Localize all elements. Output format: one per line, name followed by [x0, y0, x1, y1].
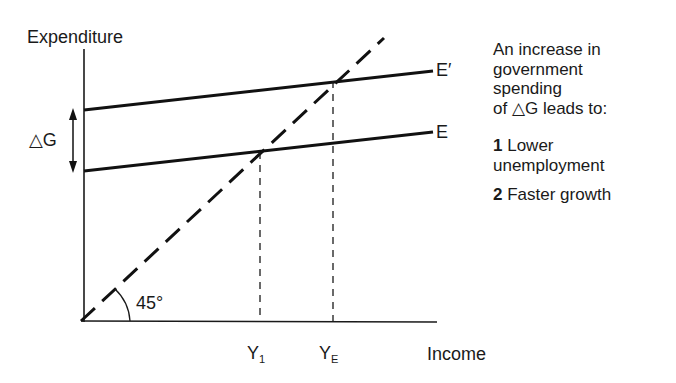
ye-sub: E	[331, 353, 338, 365]
y1-sub: 1	[259, 353, 265, 365]
line-e	[84, 132, 433, 171]
x-axis	[81, 321, 437, 322]
y-axis-label: Expenditure	[27, 28, 123, 46]
line-e-prime-label: E′	[436, 61, 451, 79]
note-line-4: of △G leads to:	[493, 99, 611, 119]
item-2-text: Faster growth	[502, 185, 611, 204]
ye-main: Y	[319, 343, 331, 363]
note-line-2: government	[493, 60, 611, 80]
delta-g-label: △G	[29, 131, 57, 149]
angle-arc-icon	[115, 289, 130, 321]
note-item-1-cont: unemployment	[493, 156, 611, 176]
ye-marker-label: YE	[319, 344, 338, 365]
y1-marker-label: Y1	[247, 344, 265, 365]
forty-five-degree-line	[81, 38, 384, 321]
note-item-2: 2 Faster growth	[493, 185, 611, 205]
note-item-1: 1 Lower	[493, 136, 611, 156]
x-axis-label: Income	[427, 345, 486, 363]
explanation-note: An increase in government spending of △G…	[493, 40, 611, 205]
angle-label: 45°	[136, 294, 163, 312]
line-e-label: E	[436, 123, 448, 141]
note-line-1: An increase in	[493, 40, 611, 60]
note-line-3: spending	[493, 79, 611, 99]
line-e-prime	[84, 71, 433, 110]
delta-g-double-arrow-icon	[69, 108, 77, 173]
item-1-text-a: Lower	[502, 136, 553, 155]
y1-main: Y	[247, 343, 259, 363]
